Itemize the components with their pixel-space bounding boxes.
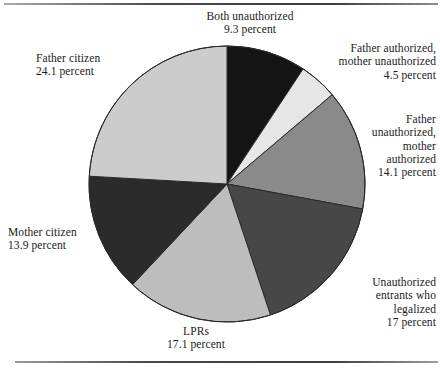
pie-label-unauthorized-entrants-who-legalized: Unauthorizedentrants wholegalized17 perc… — [372, 276, 436, 329]
pie-label-lprs: LPRs17.1 percent — [167, 325, 225, 352]
pie-label-unauthorized-entrants-who-legalized-line-4: 17 percent — [372, 316, 436, 329]
pie-label-unauthorized-entrants-who-legalized-line-3: legalized — [372, 303, 436, 316]
pie-label-father-authorized-mother-unauthorized: Father authorized,mother unauthorized4.5… — [339, 42, 436, 82]
pie-label-father-authorized-mother-unauthorized-line-3: 4.5 percent — [339, 69, 436, 82]
pie-label-father-unauthorized-mother-authorized-line-5: 14.1 percent — [372, 166, 436, 179]
pie-label-both-unauthorized-line-2: 9.3 percent — [207, 23, 294, 36]
pie-label-mother-citizen-line-1: Mother citizen — [8, 226, 77, 239]
pie-label-father-citizen-line-2: 24.1 percent — [36, 65, 100, 78]
pie-label-father-unauthorized-mother-authorized-line-1: Father — [372, 113, 436, 126]
pie-label-father-unauthorized-mother-authorized: Fatherunauthorized,motherauthorized14.1 … — [372, 113, 436, 180]
pie-label-lprs-line-2: 17.1 percent — [167, 338, 225, 351]
bottom-divider-rule — [15, 361, 438, 363]
pie-slice-father-citizen[interactable]: Father citizen — 24.1 percent — [89, 46, 227, 184]
pie-label-mother-citizen: Mother citizen13.9 percent — [8, 226, 77, 253]
pie-label-father-unauthorized-mother-authorized-line-4: authorized — [372, 153, 436, 166]
pie-label-father-authorized-mother-unauthorized-line-1: Father authorized, — [339, 42, 436, 55]
pie-label-father-citizen: Father citizen24.1 percent — [36, 52, 100, 79]
pie-label-unauthorized-entrants-who-legalized-line-2: entrants who — [372, 289, 436, 302]
pie-label-both-unauthorized-line-1: Both unauthorized — [207, 10, 294, 23]
pie-label-father-citizen-line-1: Father citizen — [36, 52, 100, 65]
pie-label-unauthorized-entrants-who-legalized-line-1: Unauthorized — [372, 276, 436, 289]
pie-label-father-authorized-mother-unauthorized-line-2: mother unauthorized — [339, 55, 436, 68]
pie-label-lprs-line-1: LPRs — [167, 325, 225, 338]
pie-chart-figure: Both unauthorized — 9.3 percentFather au… — [0, 0, 440, 371]
pie-label-father-unauthorized-mother-authorized-line-3: mother — [372, 140, 436, 153]
pie-label-both-unauthorized: Both unauthorized9.3 percent — [207, 10, 294, 37]
pie-label-mother-citizen-line-2: 13.9 percent — [8, 239, 77, 252]
pie-label-father-unauthorized-mother-authorized-line-2: unauthorized, — [372, 126, 436, 139]
